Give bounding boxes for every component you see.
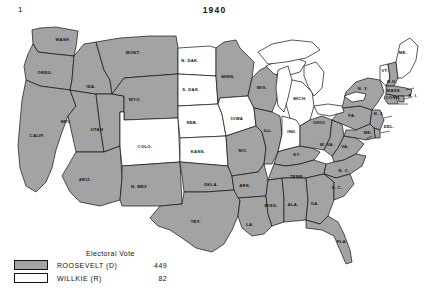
state-label-ARIZ: ARIZ. [79, 177, 91, 182]
state-label-ME: ME. [399, 50, 407, 55]
state-label-TEX: TEX. [191, 219, 202, 224]
state-label-GA: GA. [311, 201, 319, 206]
state-GA[interactable] [306, 174, 334, 224]
state-label-FLA: FLA. [337, 239, 348, 244]
state-NMEX[interactable] [120, 162, 182, 206]
state-label-NMEX: N. MEX [131, 184, 147, 189]
legend-votes-willkie: 82 [141, 275, 167, 282]
state-OKLA[interactable] [180, 162, 234, 192]
state-label-RI: R. I. [408, 93, 417, 98]
state-label-ARK: ARK. [239, 183, 250, 188]
state-label-WASH: WASH. [55, 37, 70, 42]
state-label-VA: VA. [341, 144, 349, 149]
state-label-OHIO: OHIO [313, 120, 325, 125]
state-label-OREG: OREG. [38, 70, 53, 75]
state-label-NDAK: N. DAK. [181, 58, 199, 63]
state-ALA[interactable] [282, 178, 308, 222]
leader-line-nj [384, 116, 392, 118]
great-lakes-superior [258, 40, 320, 64]
state-label-NJ: N. J. [374, 111, 384, 116]
state-label-IOWA: IOWA [231, 116, 243, 121]
state-label-MD: MD. [364, 130, 373, 135]
state-label-DEL: DEL. [384, 124, 395, 129]
state-label-SDAK: S. DAK. [182, 87, 199, 92]
state-label-VT: VT. [382, 68, 389, 73]
state-label-CALIF: CALIF. [30, 133, 45, 138]
state-label-OKLA: OKLA. [204, 182, 219, 187]
state-label-WYO: WYO. [129, 97, 141, 102]
legend-row-roosevelt: ROOSEVELT (D) 449 [14, 260, 199, 270]
state-label-ILL: ILL. [264, 128, 273, 133]
state-label-TENN: TENN. [290, 174, 304, 179]
state-shapes-group [18, 27, 418, 264]
leader-line-del [380, 131, 390, 133]
legend-row-willkie: WILLKIE (R) 82 [14, 273, 199, 283]
state-NEB[interactable] [178, 104, 226, 138]
legend-swatch-willkie [14, 273, 48, 283]
state-label-NEV: NEV. [61, 119, 72, 124]
legend-title: Electoral Vote [86, 250, 199, 257]
legend-label-roosevelt: ROOSEVELT (D) [57, 262, 141, 269]
state-label-COLO: COLO. [138, 144, 153, 149]
state-label-NC: N. C. [338, 168, 349, 173]
state-label-MONT: MONT. [126, 50, 141, 55]
state-label-KY: KY. [293, 152, 300, 157]
state-label-ALA: ALA. [288, 202, 299, 207]
legend-votes-roosevelt: 449 [141, 262, 167, 269]
state-label-IDA: IDA. [86, 84, 96, 89]
state-label-UTAH: UTAH [91, 127, 104, 132]
state-ARIZ[interactable] [62, 146, 122, 206]
state-label-LA: LA. [246, 222, 254, 227]
state-label-MINN: MINN. [221, 74, 234, 79]
state-label-NEB: NEB. [186, 120, 197, 125]
state-label-PA: PA. [348, 113, 356, 118]
state-label-KANS: KANS. [191, 149, 206, 154]
state-label-MASS: MASS. [387, 88, 402, 93]
legend: Electoral Vote ROOSEVELT (D) 449 WILLKIE… [14, 250, 199, 286]
legend-label-willkie: WILLKIE (R) [57, 275, 141, 282]
state-label-IND: IND. [287, 129, 297, 134]
state-label-WIS: WIS. [257, 85, 267, 90]
state-COLO[interactable] [120, 112, 180, 166]
state-label-MO: MO. [239, 148, 248, 153]
state-label-MICH: MICH. [293, 96, 306, 101]
state-label-WVA: W. VA. [320, 142, 335, 147]
state-label-SC: S. C. [332, 185, 343, 190]
state-ME[interactable] [396, 38, 418, 78]
state-label-CONN: CONN. [386, 95, 401, 100]
state-label-NH: N.H. [387, 79, 397, 84]
electoral-map-page: 1 1940 [0, 0, 429, 302]
legend-swatch-roosevelt [14, 260, 48, 270]
state-label-NY: N. Y. [358, 86, 368, 91]
state-label-MISS: MISS. [265, 203, 278, 208]
